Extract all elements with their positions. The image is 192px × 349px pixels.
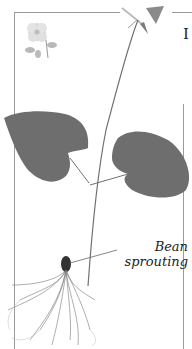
roots: [8, 270, 95, 345]
left-leaf: [4, 111, 88, 181]
caption-leader: [70, 250, 117, 263]
top-sprout: [122, 6, 164, 34]
caption-line-1: Bean: [118, 239, 188, 254]
right-leaf: [112, 131, 189, 197]
caption: Bean sprouting: [118, 239, 188, 269]
flower-icon: [25, 23, 57, 58]
bean-plant-illustration: [0, 0, 192, 349]
caption-line-2: sprouting: [118, 254, 188, 269]
bean-seed: [61, 256, 71, 272]
